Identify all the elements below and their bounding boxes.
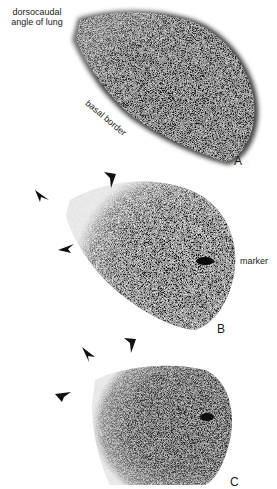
arrowhead-icon [82,347,96,363]
panel-b: marker B [0,160,277,340]
lung-scan-b [0,160,277,340]
arrowhead-icon [104,172,116,188]
panel-c: C [0,335,277,480]
dorsocaudal-label-line2: angle of lung [2,17,72,27]
arrowhead-icon [55,391,71,403]
marker-label: marker [240,256,268,266]
panel-letter-b: B [217,322,225,336]
panel-letter-c: C [230,475,239,489]
arrowhead-icon [34,188,50,204]
arrowhead-icon [124,338,136,353]
arrowhead-icon [58,242,74,254]
dorsocaudal-label: dorsocaudal angle of lung [2,7,72,27]
panel-a: dorsocaudal angle of lung basal border A [0,0,277,170]
marker-spot [200,413,214,421]
lung-scan-c [0,335,277,480]
marker-spot [196,257,214,265]
dorsocaudal-label-line1: dorsocaudal [2,7,72,17]
